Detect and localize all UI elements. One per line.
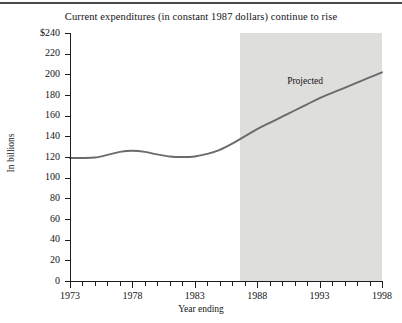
x-tick-mark xyxy=(195,281,196,288)
expenditures-line-series xyxy=(70,33,382,281)
y-tick-mark xyxy=(65,219,70,220)
x-tick-mark xyxy=(132,281,133,288)
y-tick-label: 220 xyxy=(14,47,60,58)
x-tick-label: 1983 xyxy=(173,290,217,301)
y-tick-mark xyxy=(65,178,70,179)
chart-figure: Current expenditures (in constant 1987 d… xyxy=(0,0,402,323)
y-tick-label: 200 xyxy=(14,68,60,79)
y-tick-label: 180 xyxy=(14,89,60,100)
x-tick-mark xyxy=(320,281,321,288)
x-tick-mark xyxy=(170,281,171,286)
x-tick-label: 1998 xyxy=(360,290,402,301)
y-tick-label: 100 xyxy=(14,171,60,182)
y-tick-mark xyxy=(65,157,70,158)
plot-area: Projected xyxy=(70,33,382,281)
y-tick-mark xyxy=(65,74,70,75)
x-tick-mark xyxy=(245,281,246,286)
x-tick-label: 1988 xyxy=(235,290,279,301)
y-tick-mark xyxy=(65,198,70,199)
y-tick-label: 40 xyxy=(14,233,60,244)
x-tick-mark xyxy=(95,281,96,286)
y-tick-mark xyxy=(65,54,70,55)
x-tick-mark xyxy=(82,281,83,286)
y-tick-mark xyxy=(65,240,70,241)
y-tick-mark xyxy=(65,116,70,117)
y-tick-label: 160 xyxy=(14,109,60,120)
y-tick-label: 20 xyxy=(14,254,60,265)
x-tick-mark xyxy=(70,281,71,288)
y-tick-label: 140 xyxy=(14,130,60,141)
x-tick-mark xyxy=(370,281,371,286)
x-tick-mark xyxy=(107,281,108,286)
x-tick-mark xyxy=(295,281,296,286)
x-tick-mark xyxy=(220,281,221,286)
y-tick-label: 80 xyxy=(14,192,60,203)
x-axis-line xyxy=(70,281,383,282)
y-tick-label: 120 xyxy=(14,151,60,162)
x-tick-label: 1993 xyxy=(298,290,342,301)
x-axis-title: Year ending xyxy=(0,304,402,314)
projected-annotation: Projected xyxy=(287,76,323,86)
x-tick-mark xyxy=(207,281,208,286)
y-tick-label: 60 xyxy=(14,213,60,224)
x-tick-mark xyxy=(145,281,146,286)
x-tick-mark xyxy=(257,281,258,288)
x-tick-mark xyxy=(157,281,158,286)
x-tick-label: 1978 xyxy=(110,290,154,301)
x-tick-mark xyxy=(182,281,183,286)
x-tick-mark xyxy=(232,281,233,286)
x-tick-mark xyxy=(345,281,346,286)
x-tick-mark xyxy=(357,281,358,286)
y-tick-mark xyxy=(65,95,70,96)
x-tick-label: 1973 xyxy=(48,290,92,301)
top-divider xyxy=(0,2,402,4)
x-tick-mark xyxy=(120,281,121,286)
x-tick-mark xyxy=(270,281,271,286)
x-tick-mark xyxy=(282,281,283,286)
y-tick-mark xyxy=(65,136,70,137)
y-axis-line xyxy=(70,33,71,282)
line-path xyxy=(70,72,382,158)
y-tick-label: $240 xyxy=(14,27,60,38)
y-tick-mark xyxy=(65,260,70,261)
x-tick-mark xyxy=(382,281,383,288)
x-tick-mark xyxy=(332,281,333,286)
y-tick-mark xyxy=(65,33,70,34)
x-tick-mark xyxy=(307,281,308,286)
chart-title: Current expenditures (in constant 1987 d… xyxy=(0,11,402,22)
y-tick-label: 0 xyxy=(14,275,60,286)
